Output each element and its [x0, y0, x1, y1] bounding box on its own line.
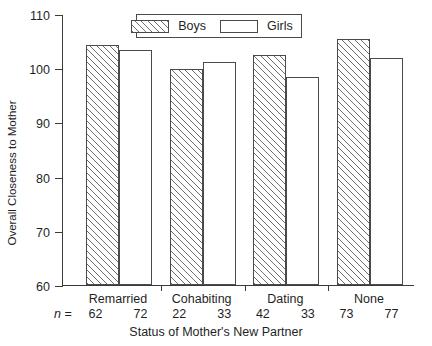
n-dating-boys: 42 — [240, 307, 285, 321]
x-axis-title: Status of Mother's New Partner — [0, 325, 432, 339]
n-cohabiting-boys: 22 — [157, 307, 202, 321]
x-label-remarried: Remarried — [73, 292, 163, 306]
x-label-none: None — [324, 292, 414, 306]
y-tick-60: 60 — [55, 286, 63, 287]
legend-label-girls: Girls — [267, 19, 293, 33]
y-tick-label-60: 60 — [36, 280, 50, 294]
y-axis-title: Overall Closeness to Mother — [6, 58, 18, 288]
bar-cohabiting-girls — [203, 62, 236, 285]
y-tick-80: 80 — [55, 178, 63, 179]
n-remarried-boys: 62 — [73, 307, 118, 321]
y-tick-label-110: 110 — [30, 9, 50, 23]
n-values-remarried: 6272 — [73, 307, 163, 321]
n-values-cohabiting: 2233 — [157, 307, 247, 321]
x-tick-1 — [161, 285, 162, 291]
n-values-none: 7377 — [324, 307, 414, 321]
y-tick-70: 70 — [55, 232, 63, 233]
y-tick-100: 100 — [55, 69, 63, 70]
x-tick-3 — [328, 285, 329, 291]
chart-legend: Boys Girls — [136, 14, 302, 38]
n-none-girls: 77 — [369, 307, 414, 321]
legend-swatch-boys-icon — [131, 20, 169, 33]
y-tick-label-90: 90 — [36, 117, 50, 131]
bar-cohabiting-boys — [170, 69, 203, 285]
bar-remarried-girls — [119, 50, 152, 285]
n-none-boys: 73 — [324, 307, 369, 321]
bar-remarried-boys — [86, 45, 119, 285]
legend-label-boys: Boys — [178, 19, 206, 33]
bar-none-boys — [337, 39, 370, 285]
x-tick-2 — [245, 285, 246, 291]
x-label-dating: Dating — [240, 292, 330, 306]
y-tick-110: 110 — [55, 15, 63, 16]
bar-chart-figure: Overall Closeness to Mother 607080901001… — [0, 0, 432, 346]
y-tick-label-70: 70 — [36, 226, 50, 240]
legend-swatch-girls-icon — [220, 20, 258, 33]
n-values-dating: 4233 — [240, 307, 330, 321]
y-tick-label-100: 100 — [29, 63, 50, 77]
bar-dating-boys — [253, 55, 286, 285]
bar-none-girls — [370, 58, 403, 285]
legend-entry-girls: Girls — [220, 19, 307, 33]
n-equals-prefix: n = — [54, 307, 72, 321]
x-label-cohabiting: Cohabiting — [157, 292, 247, 306]
plot-area: 60708090100110 — [62, 15, 414, 286]
y-tick-label-80: 80 — [36, 172, 50, 186]
legend-entry-boys: Boys — [131, 19, 220, 33]
bar-dating-girls — [286, 77, 319, 285]
y-tick-90: 90 — [55, 123, 63, 124]
